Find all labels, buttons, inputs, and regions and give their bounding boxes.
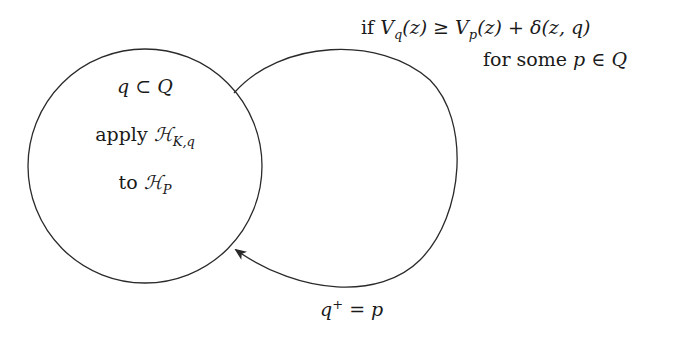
to-word: to: [119, 171, 138, 193]
V-rhs-subscript: p: [469, 27, 477, 42]
p-var: p: [371, 298, 383, 320]
p-var: p: [573, 48, 585, 70]
if-word: if: [361, 16, 374, 38]
apply-word: apply: [95, 123, 147, 145]
V-lhs-subscript: q: [394, 27, 402, 42]
for-some-words: for some: [483, 48, 567, 70]
Q-set: Q: [157, 75, 173, 97]
H-subscript-Kq: K,q: [173, 134, 195, 149]
delta-symbol: δ: [530, 16, 541, 38]
plus-symbol: +: [508, 16, 524, 38]
V-rhs-arg: (z): [477, 16, 502, 38]
delta-arg: (z, q): [541, 16, 590, 38]
V-lhs: V: [380, 16, 394, 38]
reset-map-label: q+ = p: [320, 300, 383, 319]
guard-condition-line1: if Vq(z) ≥ Vp(z) + δ(z, q): [361, 18, 591, 37]
state-apply-label: apply ℋK,q: [45, 123, 245, 145]
self-loop-transition: [234, 49, 457, 287]
state-target-label: to ℋP: [45, 171, 245, 193]
subset-symbol: ⊂: [135, 75, 151, 97]
H-subscript-P: P: [163, 182, 172, 197]
q-var: q: [117, 75, 129, 97]
H-operator: ℋ: [144, 171, 163, 193]
state-membership-label: q ⊂ Q: [45, 75, 245, 97]
guard-condition-line2: for some p ∈ Q: [483, 50, 627, 69]
V-lhs-arg: (z): [402, 16, 427, 38]
q-var: q: [320, 298, 332, 320]
element-of-symbol: ∈: [591, 48, 605, 70]
geq-symbol: ≥: [433, 16, 449, 38]
equals-symbol: =: [349, 298, 365, 320]
Q-set: Q: [611, 48, 627, 70]
H-operator: ℋ: [154, 123, 173, 145]
V-rhs: V: [455, 16, 469, 38]
plus-superscript: +: [332, 297, 343, 312]
